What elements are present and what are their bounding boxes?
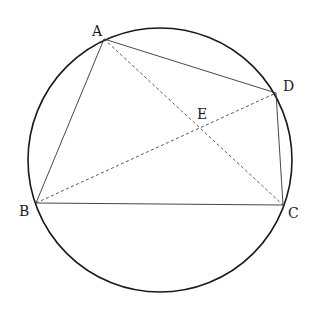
- geometry-diagram: A B C D E: [0, 0, 316, 309]
- point-label-d: D: [283, 78, 294, 94]
- circumscribed-circle: [28, 28, 292, 292]
- side-da: [104, 39, 276, 93]
- point-label-a: A: [91, 23, 103, 39]
- diagonal-ac: [104, 39, 283, 205]
- point-label-e: E: [197, 106, 207, 122]
- point-label-c: C: [288, 205, 299, 221]
- side-bc: [36, 203, 283, 205]
- diagonal-bd: [36, 93, 276, 203]
- point-label-b: B: [19, 203, 29, 219]
